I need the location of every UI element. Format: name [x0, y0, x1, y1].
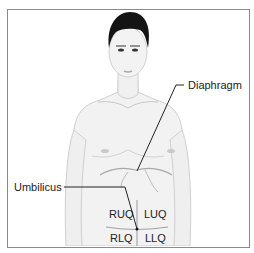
- quadrant-ruq: RUQ: [109, 209, 133, 220]
- torso-outline-icon: [69, 80, 187, 246]
- head-icon: [109, 27, 147, 77]
- quadrant-llq: LLQ: [145, 233, 166, 244]
- quadrant-luq: LUQ: [144, 209, 167, 220]
- umbilicus-label: Umbilicus: [14, 182, 62, 193]
- quadrant-rlq: RLQ: [110, 233, 133, 244]
- diaphragm-label: Diaphragm: [188, 80, 242, 91]
